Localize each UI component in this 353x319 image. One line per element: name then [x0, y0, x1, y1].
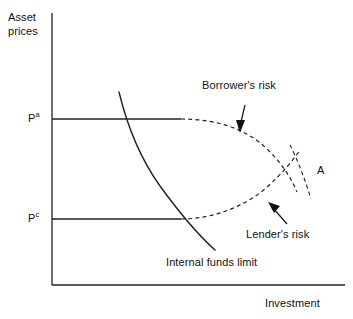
tick-label-lower-price-superscript: c: [35, 210, 39, 219]
diagram-canvas: [0, 0, 353, 319]
tick-label-upper-price-superscript: a: [35, 110, 39, 119]
borrowers-risk-arrow: [236, 105, 245, 133]
borrowers-risk-curve: [181, 119, 297, 192]
borrowers-risk-label: Borrower's risk: [202, 79, 276, 92]
crossing-line-through-a: [290, 145, 311, 199]
lenders-risk-curve: [181, 150, 300, 219]
borrowers-risk-arrow-head: [236, 120, 245, 133]
lower-price-schedule: [52, 150, 300, 219]
lenders-risk-arrow-head: [268, 202, 280, 213]
tick-label-lower-price: Pc: [28, 212, 39, 225]
lenders-risk-label: Lender's risk: [246, 228, 309, 241]
lenders-risk-arrow: [268, 202, 287, 224]
point-a-label: A: [317, 164, 324, 177]
tick-label-upper-price: Pa: [28, 112, 40, 125]
internal-funds-limit-label: Internal funds limit: [166, 256, 257, 269]
economics-diagram: Asset prices Investment Pa Pc Borrower's…: [0, 0, 353, 319]
upper-price-schedule: [52, 119, 297, 192]
axes-group: [52, 13, 345, 285]
x-axis-label: Investment: [265, 297, 320, 310]
y-axis-label: Asset prices: [8, 10, 56, 38]
internal-funds-limit-curve: [119, 92, 215, 250]
